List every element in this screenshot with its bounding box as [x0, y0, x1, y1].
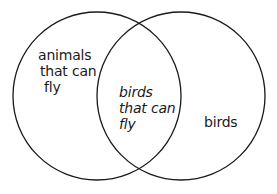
left-set-label: animals that can fly [38, 47, 96, 95]
intersection-label: birds that can fly [119, 84, 175, 132]
left-label-line-3: fly [38, 79, 96, 95]
right-label-line-1: birds [204, 114, 237, 130]
intersection-label-line-3: fly [119, 116, 175, 132]
intersection-label-line-2: that can [119, 100, 175, 116]
left-label-line-1: animals [38, 47, 96, 63]
right-set-label: birds [204, 114, 237, 130]
left-label-line-2: that can [38, 63, 96, 79]
intersection-label-line-1: birds [119, 84, 175, 100]
